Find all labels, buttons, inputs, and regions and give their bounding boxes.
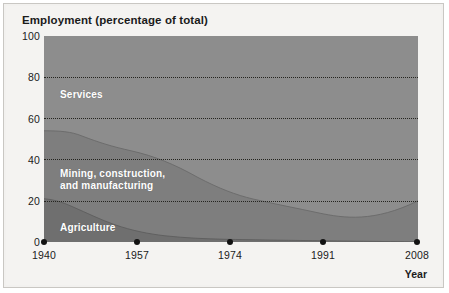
series-label-services: Services: [60, 89, 103, 101]
y-tick-80: 80: [2, 71, 40, 83]
y-tick-20: 20: [2, 195, 40, 207]
x-marker-1940: [41, 239, 47, 245]
chart-title: Employment (percentage of total): [22, 14, 208, 26]
series-label-manufacturing: Mining, construction, and manufacturing: [60, 168, 165, 192]
plot-area: [44, 36, 418, 242]
x-tick-1991: 1991: [295, 249, 351, 261]
x-axis-label: Year: [405, 268, 427, 280]
x-tick-2008: 2008: [389, 249, 445, 261]
x-marker-1957: [134, 239, 140, 245]
x-tick-1974: 1974: [202, 249, 258, 261]
y-tick-100: 100: [2, 30, 40, 42]
series-label-agriculture: Agriculture: [60, 222, 116, 234]
y-tick-40: 40: [2, 154, 40, 166]
x-marker-2008: [414, 239, 420, 245]
x-marker-1991: [320, 239, 326, 245]
y-tick-60: 60: [2, 113, 40, 125]
stacked-area-svg: [44, 36, 418, 242]
y-tick-0: 0: [2, 236, 40, 248]
x-tick-1940: 1940: [16, 249, 72, 261]
x-marker-1974: [227, 239, 233, 245]
chart-figure: Employment (percentage of total) Service…: [0, 0, 449, 293]
x-tick-1957: 1957: [109, 249, 165, 261]
